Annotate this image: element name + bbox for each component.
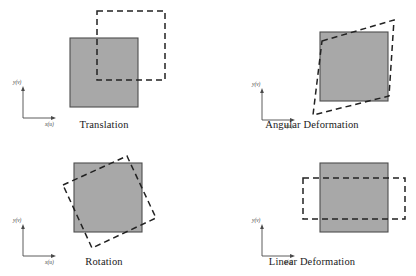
panel-angular-deformation: y(v) x(u) [208,0,416,138]
original-element [74,163,142,232]
translation-diagram: y(v) x(u) [0,0,208,138]
y-axis-label: y(v) [12,217,22,224]
angular-deformation-diagram: y(v) x(u) [208,0,416,138]
y-axis-label: y(v) [251,81,261,88]
page-bleed [0,268,416,276]
caption-linear-deformation: Linear Deformation [208,256,416,267]
y-axis-arrow-icon [21,86,25,91]
y-axis-label: y(v) [251,217,261,224]
y-axis-arrow-icon [21,224,25,229]
y-axis-arrow-icon [260,224,264,229]
original-element [320,163,388,232]
caption-rotation: Rotation [0,256,208,267]
caption-translation: Translation [0,119,208,130]
original-element [320,32,388,101]
y-axis-label: y(v) [12,79,22,86]
deformation-figure: y(v) x(u) y(v) x(u) [0,0,416,276]
original-element [70,38,138,107]
panel-translation: y(v) x(u) [0,0,208,138]
y-axis-arrow-icon [260,88,264,93]
caption-angular-deformation: Angular Deformation [208,119,416,130]
